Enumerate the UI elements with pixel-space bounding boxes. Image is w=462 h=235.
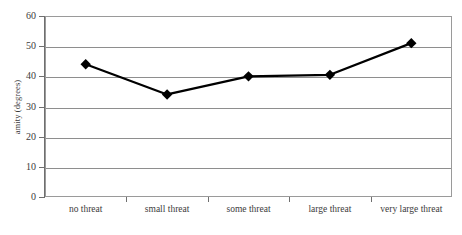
data-point-marker xyxy=(325,70,335,80)
x-axis-tick-label: some threat xyxy=(226,204,270,214)
data-point-marker xyxy=(243,71,253,81)
y-axis-tick-mark xyxy=(39,107,45,108)
y-axis-tick-mark xyxy=(39,76,45,77)
y-axis-tick-label: 0 xyxy=(10,192,36,202)
y-axis-tick-label: 50 xyxy=(10,41,36,51)
y-axis-tick-label: 40 xyxy=(10,71,36,81)
y-axis-tick-mark xyxy=(39,46,45,47)
y-axis-tick-mark xyxy=(39,167,45,168)
y-axis-tick-mark xyxy=(39,16,45,17)
y-axis-tick-label: 10 xyxy=(10,162,36,172)
x-axis-tick-label: small threat xyxy=(145,204,190,214)
data-point-marker xyxy=(406,38,416,48)
data-point-marker xyxy=(81,59,91,69)
x-axis-tick-mark xyxy=(126,197,127,202)
x-axis-tick-mark xyxy=(289,197,290,202)
x-axis-tick-label: no threat xyxy=(69,204,103,214)
data-point-marker xyxy=(162,89,172,99)
x-axis-tick-label: large threat xyxy=(308,204,351,214)
data-series-layer xyxy=(45,16,452,197)
y-axis-tick-labels: 0102030405060 xyxy=(6,0,36,235)
y-axis-tick-mark xyxy=(39,197,45,198)
y-axis-tick-mark xyxy=(39,137,45,138)
y-axis-tick-label: 60 xyxy=(10,11,36,21)
y-axis-tick-label: 30 xyxy=(10,102,36,112)
x-axis-tick-mark xyxy=(371,197,372,202)
y-axis-tick-label: 20 xyxy=(10,132,36,142)
series-line xyxy=(86,43,412,94)
x-axis-tick-mark xyxy=(208,197,209,202)
x-axis-tick-label: very large threat xyxy=(380,204,442,214)
line-chart: amity (degrees) 0102030405060 no threats… xyxy=(0,0,462,235)
